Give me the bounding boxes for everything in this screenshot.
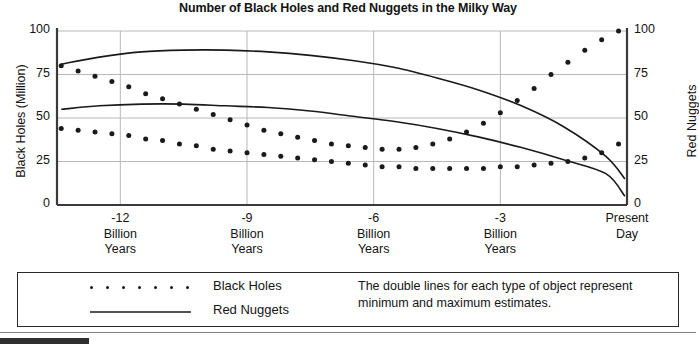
x-tick-2: -6BillionYears	[314, 211, 434, 258]
y-tick-left-50: 50	[2, 109, 50, 123]
x-tick-0: -12BillionYears	[60, 211, 180, 258]
y-tick-left-75: 75	[2, 66, 50, 80]
legend-dot	[186, 286, 189, 289]
legend-dot	[154, 286, 157, 289]
chart-series-1	[59, 126, 621, 171]
dotted-line-icon	[88, 276, 193, 300]
solid-line-icon	[88, 300, 193, 324]
y-tick-left-25: 25	[2, 153, 50, 167]
chart-series-0	[59, 29, 621, 152]
footer-bar	[0, 338, 89, 344]
y-tick-right-100: 100	[634, 22, 682, 36]
legend-dot	[170, 286, 173, 289]
x-tick-1: -9BillionYears	[187, 211, 307, 258]
y-tick-right-0: 0	[634, 196, 682, 210]
chart-legend: Black Holes Red Nuggets The double lines…	[17, 272, 679, 327]
x-tick-3: -3BillionYears	[440, 211, 560, 258]
x-tick-4: PresentDay	[567, 211, 687, 242]
y-tick-right-25: 25	[634, 153, 682, 167]
legend-note: The double lines for each type of object…	[358, 278, 678, 312]
chart-svg	[0, 14, 696, 214]
legend-dot	[106, 286, 109, 289]
legend-dot	[138, 286, 141, 289]
legend-label-black-holes: Black Holes	[213, 278, 282, 293]
footer-divider	[0, 332, 696, 333]
chart-plot-area: Black Holes (Million) Red Nuggets	[0, 14, 696, 214]
y-axis-right-title: Red Nuggets	[685, 26, 699, 216]
y-tick-right-75: 75	[634, 66, 682, 80]
y-tick-left-100: 100	[2, 22, 50, 36]
legend-dot	[122, 286, 125, 289]
legend-label-red-nuggets: Red Nuggets	[213, 302, 289, 317]
y-tick-right-50: 50	[634, 109, 682, 123]
legend-dot	[90, 286, 93, 289]
y-tick-left-0: 0	[2, 196, 50, 210]
page-title: Number of Black Holes and Red Nuggets in…	[0, 1, 696, 15]
